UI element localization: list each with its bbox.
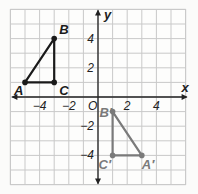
vertex-label: C <box>59 83 69 98</box>
x-tick-label: 4 <box>153 99 160 113</box>
y-tick-label: −4 <box>80 148 94 162</box>
y-tick-label: −2 <box>80 119 94 133</box>
y-tick-label: 4 <box>87 32 94 46</box>
vertex-label: A <box>13 83 23 98</box>
y-tick-label: 2 <box>86 61 94 75</box>
vertex-point <box>51 36 57 42</box>
origin-label: O <box>88 99 97 113</box>
vertex-label: A′ <box>141 157 155 172</box>
vertex-label: C′ <box>99 157 112 172</box>
coordinate-plane: xyO−4−22442−2−4 ABCA′B′C′ <box>0 0 198 194</box>
y-axis-label: y <box>103 7 112 22</box>
vertex-label: B <box>59 22 68 37</box>
x-axis-label: x <box>181 80 190 95</box>
x-tick-label: 2 <box>123 99 131 113</box>
x-tick-label: −4 <box>33 99 47 113</box>
vertex-label: B′ <box>100 105 113 120</box>
x-tick-label: −2 <box>62 99 76 113</box>
vertex-point <box>51 80 57 86</box>
